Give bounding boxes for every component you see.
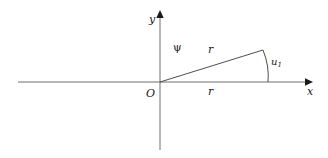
figure-container: y x O ψ r r u1	[0, 0, 328, 158]
radius-upper-label: r	[208, 44, 213, 55]
displacement-arc	[263, 50, 268, 82]
x-axis-label: x	[307, 86, 313, 97]
y-axis-label: y	[149, 14, 155, 25]
y-axis	[156, 10, 163, 150]
radius-lower-label: r	[208, 86, 213, 97]
diagram-canvas	[0, 0, 328, 158]
displacement-label: u1	[271, 57, 282, 67]
angle-psi-label: ψ	[173, 42, 182, 53]
y-axis-arrowhead	[156, 10, 163, 18]
displacement-subscript: 1	[277, 61, 281, 69]
x-axis	[18, 78, 313, 85]
origin-label: O	[146, 88, 155, 99]
